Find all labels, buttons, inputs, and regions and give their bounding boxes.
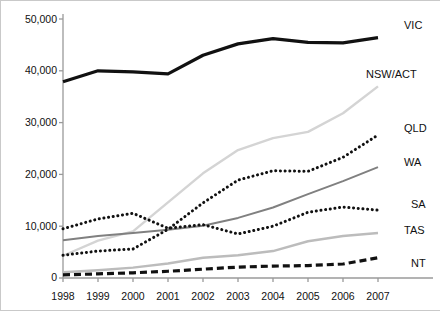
series-label-sa: SA	[411, 199, 426, 210]
x-tick-label-2006: 2006	[323, 291, 363, 302]
series-group	[63, 38, 378, 275]
x-tick-label-2005: 2005	[288, 291, 328, 302]
x-tick-label-2004: 2004	[253, 291, 293, 302]
x-tick-label-2002: 2002	[183, 291, 223, 302]
x-tick-label-1998: 1998	[43, 291, 83, 302]
series-label-qld: QLD	[404, 123, 427, 134]
x-tick-label-2001: 2001	[148, 291, 188, 302]
x-tick-label-2007: 2007	[358, 291, 398, 302]
y-tick-label-20000: 20,000	[0, 169, 57, 180]
series-label-vic: VIC	[404, 20, 422, 31]
series-line-vic	[63, 38, 378, 82]
y-tick-label-30000: 30,000	[0, 117, 57, 128]
series-label-tas: TAS	[404, 225, 425, 236]
y-tick-label-50000: 50,000	[0, 14, 57, 25]
x-tick-label-2003: 2003	[218, 291, 258, 302]
series-line-tas	[63, 233, 378, 272]
x-tick-label-1999: 1999	[78, 291, 118, 302]
y-tick-label-40000: 40,000	[0, 65, 57, 76]
x-tick-label-2000: 2000	[113, 291, 153, 302]
series-label-nswact: NSW/ACT	[366, 69, 417, 80]
series-line-sa	[63, 207, 378, 234]
plot-area	[0, 0, 440, 321]
line-chart: 50,000 40,000 30,000 20,000 10,000 0 199…	[0, 0, 440, 321]
y-tick-label-0: 0	[0, 272, 57, 283]
y-tick-label-10000: 10,000	[0, 221, 57, 232]
series-label-wa: WA	[404, 157, 421, 168]
series-label-nt: NT	[411, 258, 426, 269]
series-line-nt	[63, 258, 378, 275]
